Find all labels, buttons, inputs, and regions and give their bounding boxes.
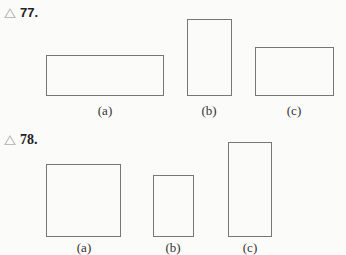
figure-78c-rectangle	[228, 142, 272, 237]
triangle-icon	[4, 135, 16, 145]
figure-77a-rectangle	[46, 55, 164, 96]
figure-77c-rectangle	[255, 47, 334, 96]
figure-label: (c)	[287, 103, 301, 119]
triangle-icon	[4, 8, 16, 18]
figure-label: (b)	[201, 103, 216, 119]
figure-77b-rectangle	[187, 19, 232, 96]
figure-label: (a)	[77, 240, 91, 255]
problem-78-header: 78.	[4, 132, 38, 148]
figure-78a-square	[46, 164, 121, 237]
figure-label: (c)	[243, 240, 257, 255]
figure-label: (a)	[98, 103, 112, 119]
problem-77-header: 77.	[4, 5, 38, 20]
problem-number: 77.	[20, 5, 38, 20]
figure-78b-rectangle	[153, 175, 194, 237]
figure-label: (b)	[165, 240, 180, 255]
problem-number: 78.	[20, 132, 38, 148]
